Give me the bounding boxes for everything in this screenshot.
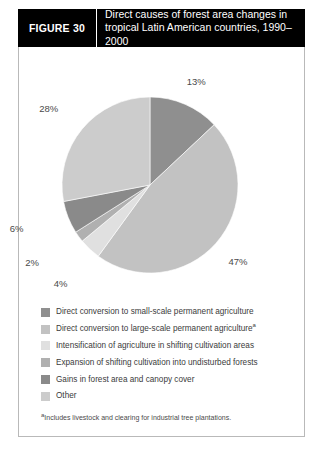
legend-item[interactable]: Direct conversion to small-scale permane… — [41, 304, 291, 321]
legend-item[interactable]: Other — [41, 388, 291, 405]
pie-slice-label: 6% — [10, 223, 24, 234]
legend-color-swatch — [41, 308, 50, 317]
figure-title-line-1: Direct causes of forest area changes in — [105, 8, 287, 20]
legend-item-label: Intensification of agriculture in shifti… — [56, 341, 254, 351]
figure-number-label: FIGURE 30 — [18, 9, 97, 47]
pie-chart-svg — [0, 47, 320, 287]
legend-item[interactable]: Direct conversion to large-scale permane… — [41, 321, 291, 338]
legend-color-swatch — [41, 358, 50, 367]
figure-header: FIGURE 30 Direct causes of forest area c… — [18, 9, 305, 47]
pie-slice — [62, 97, 150, 201]
legend-color-swatch — [41, 341, 50, 350]
legend-color-swatch — [41, 392, 50, 401]
pie-chart: 13%47%4%2%6%28% — [0, 47, 320, 287]
legend-item-label: Other — [56, 391, 76, 401]
legend-item[interactable]: Gains in forest area and canopy cover — [41, 371, 291, 388]
figure-container: FIGURE 30 Direct causes of forest area c… — [0, 0, 320, 452]
legend-item-label: Direct conversion to large-scale permane… — [56, 324, 256, 334]
footnote-text: Includes livestock and clearing for indu… — [44, 414, 231, 421]
pie-slice-label: 2% — [25, 257, 39, 268]
pie-slice-label: 4% — [54, 278, 68, 289]
pie-slice-label: 13% — [187, 76, 206, 87]
legend-item-label: Gains in forest area and canopy cover — [56, 375, 194, 385]
legend-item-label: Expansion of shifting cultivation into u… — [56, 358, 258, 368]
legend-item-label: Direct conversion to small-scale permane… — [56, 307, 254, 317]
figure-footnote: aIncludes livestock and clearing for ind… — [41, 414, 231, 421]
figure-title: Direct causes of forest area changes in … — [97, 9, 305, 47]
pie-slice-label: 28% — [39, 103, 58, 114]
legend-item[interactable]: Intensification of agriculture in shifti… — [41, 338, 291, 355]
chart-legend: Direct conversion to small-scale permane… — [41, 304, 291, 405]
figure-title-line-2: tropical Latin American countries, 1990–… — [105, 21, 292, 47]
legend-color-swatch — [41, 325, 50, 334]
legend-footnote-marker: a — [253, 322, 256, 328]
legend-item[interactable]: Expansion of shifting cultivation into u… — [41, 354, 291, 371]
legend-color-swatch — [41, 375, 50, 384]
pie-slice-label: 47% — [229, 256, 248, 267]
